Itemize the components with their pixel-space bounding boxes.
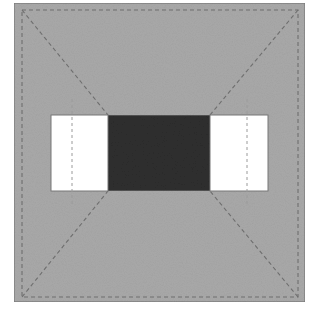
quilt-block-diagram bbox=[0, 0, 315, 312]
left-white-panel bbox=[51, 115, 108, 191]
right-white-panel bbox=[210, 115, 268, 191]
center-dark-panel bbox=[108, 115, 210, 191]
diagram-canvas bbox=[0, 0, 315, 312]
